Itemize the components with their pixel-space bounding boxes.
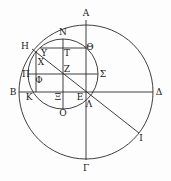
label-Xi: Ξ — [55, 93, 61, 102]
label-Sigma: Σ — [100, 70, 106, 79]
label-H: Η — [21, 42, 29, 51]
geometric-diagram: Α Ν Η Θ Υ Τ Χ Ζ Π Σ Φ Β Δ Κ Ξ Ε Λ Ο Ι Γ — [0, 0, 171, 181]
label-Phi: Φ — [35, 76, 42, 85]
diagram-lines — [0, 0, 171, 181]
label-N: Ν — [59, 28, 67, 37]
label-X: Χ — [38, 58, 44, 67]
label-Z: Ζ — [64, 65, 70, 74]
label-E: Ε — [77, 93, 84, 102]
label-Pi: Π — [22, 70, 30, 79]
label-Delta: Δ — [156, 88, 163, 97]
label-K: Κ — [26, 93, 33, 102]
diagonal-HI — [32, 49, 139, 133]
label-A: Α — [83, 9, 90, 18]
label-I: Ι — [139, 134, 143, 143]
label-T: Τ — [64, 49, 70, 58]
label-Gamma: Γ — [83, 164, 89, 173]
label-O: Ο — [59, 109, 66, 118]
label-Lambda: Λ — [86, 100, 93, 109]
label-B: Β — [10, 88, 17, 97]
label-Theta: Θ — [86, 43, 93, 52]
